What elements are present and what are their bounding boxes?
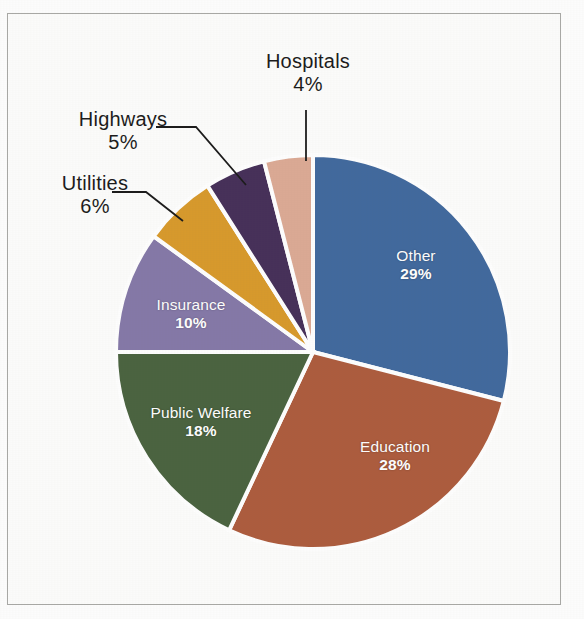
slice-callout-utilities-name: Utilities bbox=[20, 172, 170, 195]
pie-chart: Other 29% Education 28% Public Welfare 1… bbox=[0, 0, 584, 619]
slice-callout-utilities-value: 6% bbox=[20, 195, 170, 218]
slice-callout-highways-value: 5% bbox=[48, 131, 198, 154]
figure-page: Other 29% Education 28% Public Welfare 1… bbox=[0, 0, 584, 619]
slice-callout-highways-name: Highways bbox=[48, 108, 198, 131]
slice-callout-hospitals: Hospitals 4% bbox=[228, 50, 388, 96]
slice-callout-hospitals-name: Hospitals bbox=[228, 50, 388, 73]
slice-callout-utilities: Utilities 6% bbox=[20, 172, 170, 218]
slice-callout-highways: Highways 5% bbox=[48, 108, 198, 154]
slice-callout-hospitals-value: 4% bbox=[228, 73, 388, 96]
